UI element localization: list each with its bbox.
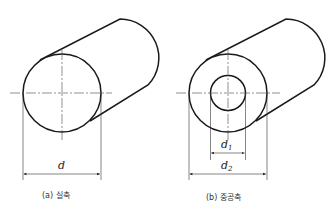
dimension-label-d1: d1 bbox=[221, 138, 233, 152]
caption-hollow-shaft: (b) 중공축 bbox=[206, 193, 241, 202]
shaft-diagram: d (a) 실축 d1 d2 (b) 중공축 bbox=[0, 0, 329, 210]
dimension-label-d2: d2 bbox=[221, 159, 233, 173]
solid-shaft-figure: d (a) 실축 bbox=[10, 19, 159, 200]
caption-solid-shaft: (a) 실축 bbox=[42, 190, 70, 200]
hollow-shaft-figure: d1 d2 (b) 중공축 bbox=[176, 19, 325, 202]
dimension-label-d: d bbox=[58, 159, 65, 172]
